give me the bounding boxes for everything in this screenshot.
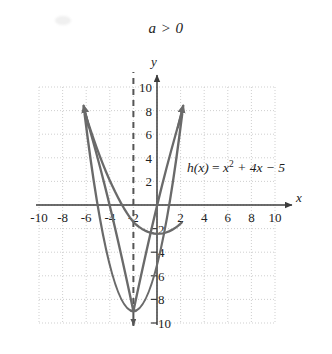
equation-variable: x (222, 160, 229, 175)
graph-canvas: x y -10 -8 -6 -4 -2 2 4 6 8 10 10 8 6 4 … (0, 0, 332, 354)
x-tick-label: -10 (30, 210, 47, 225)
x-tick-label: 6 (225, 210, 232, 225)
x-tick-label: 10 (269, 210, 282, 225)
y-tick-label: 6 (146, 127, 153, 142)
x-tick-label: 8 (248, 210, 255, 225)
y-tick-labels-positive: 10 8 6 4 2 (139, 80, 153, 189)
y-tick-label: 2 (146, 174, 153, 189)
equation-remainder: + 4x − 5 (234, 160, 285, 175)
parabola-figure: a > 0 (0, 0, 332, 354)
y-axis-label: y (149, 54, 157, 69)
y-tick-label: 8 (146, 104, 153, 119)
x-tick-label: -6 (81, 210, 92, 225)
y-tick-label: 6 (158, 269, 165, 284)
x-tick-label: -8 (57, 210, 68, 225)
equation-annotation: h(x) = x2 + 4x − 5 (187, 159, 285, 175)
x-axis-label: x (295, 190, 302, 205)
y-tick-labels-negative: 2 4 6 8 10 (158, 222, 171, 331)
y-tick-label: 8 (158, 292, 165, 307)
equation-equals: = (209, 160, 223, 175)
x-tick-label: 4 (201, 210, 208, 225)
y-tick-label: 4 (146, 151, 153, 166)
y-tick-label: 10 (158, 316, 171, 331)
equation-function: h(x) (187, 160, 209, 175)
y-tick-label: 10 (139, 80, 152, 95)
